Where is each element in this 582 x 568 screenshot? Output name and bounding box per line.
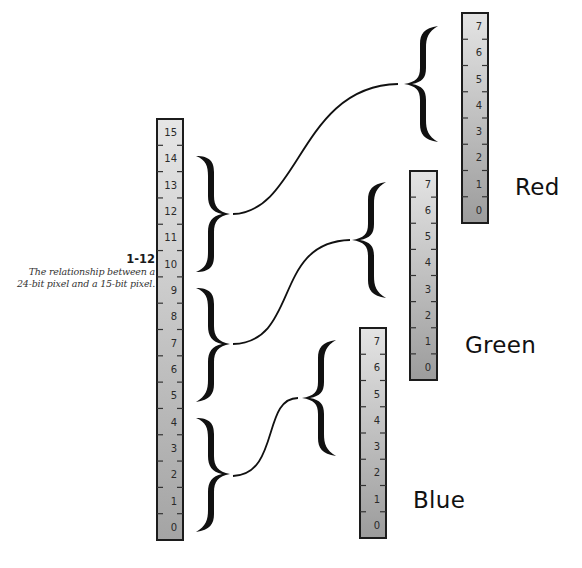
caption-line-2: 24-bit pixel and a 15-bit pixel. — [0, 278, 155, 290]
bit-label: 10 — [164, 259, 177, 270]
pixel15-bar: 1514131211109876543210 — [157, 119, 183, 540]
bit-label: 1 — [374, 494, 380, 505]
bit-label: 7 — [374, 336, 380, 347]
bit-label: 7 — [171, 338, 177, 349]
bit-label: 4 — [476, 100, 482, 111]
bit-label: 6 — [425, 205, 431, 216]
bit-label: 11 — [164, 232, 177, 243]
bit-label: 3 — [374, 441, 380, 452]
bit-label: 5 — [476, 74, 482, 85]
connector-green — [233, 240, 350, 344]
bit-label: 4 — [171, 417, 177, 428]
green-channel-bar: 76543210 — [410, 171, 437, 380]
bit-label: 2 — [171, 469, 177, 480]
bit-label: 4 — [425, 257, 431, 268]
bit-label: 15 — [164, 127, 177, 138]
brace-blue-source-icon — [196, 418, 230, 532]
brace-green-source-icon — [196, 288, 230, 402]
bit-label: 1 — [425, 336, 431, 347]
blue-channel-bar: 76543210 — [360, 328, 386, 538]
connector-blue — [233, 398, 298, 476]
bit-label: 1 — [476, 179, 482, 190]
blue-label: Blue — [413, 487, 465, 513]
bit-label: 6 — [171, 364, 177, 375]
red-label: Red — [515, 174, 560, 200]
brace-red-target-icon — [404, 26, 438, 142]
caption-line-1: The relationship between a — [0, 266, 155, 278]
red-channel-bar: 76543210 — [462, 13, 488, 223]
bit-label: 3 — [425, 284, 431, 295]
bit-label: 3 — [171, 443, 177, 454]
bit-label: 2 — [476, 152, 482, 163]
bit-label: 9 — [171, 285, 177, 296]
bit-label: 0 — [425, 362, 431, 373]
bit-label: 6 — [476, 47, 482, 58]
bit-label: 14 — [164, 153, 177, 164]
bit-label: 5 — [374, 389, 380, 400]
green-label: Green — [465, 332, 536, 358]
bit-label: 2 — [425, 310, 431, 321]
brace-green-target-icon — [352, 182, 386, 298]
bit-label: 4 — [374, 415, 380, 426]
bit-label: 12 — [164, 206, 177, 217]
bit-label: 7 — [476, 21, 482, 32]
brace-blue-target-icon — [302, 340, 336, 456]
bit-label: 5 — [425, 231, 431, 242]
bit-label: 8 — [171, 311, 177, 322]
figure-number: 1-12 — [0, 253, 155, 266]
bit-label: 0 — [171, 522, 177, 533]
figure-caption: 1-12 The relationship between a 24-bit p… — [0, 253, 155, 289]
bit-label: 1 — [171, 496, 177, 507]
bit-label: 0 — [476, 205, 482, 216]
bit-label: 3 — [476, 126, 482, 137]
bit-label: 0 — [374, 520, 380, 531]
bit-label: 6 — [374, 362, 380, 373]
bit-label: 5 — [171, 390, 177, 401]
bit-label: 13 — [164, 180, 177, 191]
brace-red-source-icon — [196, 156, 230, 272]
bit-label: 2 — [374, 467, 380, 478]
bit-label: 7 — [425, 179, 431, 190]
